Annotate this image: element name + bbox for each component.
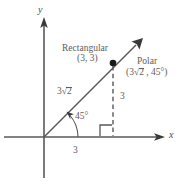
x-axis-label: x	[169, 130, 173, 141]
plotted-point	[110, 60, 117, 67]
polar-coordinates: (3√2 , 45°)	[126, 68, 167, 78]
polar-coords-open: (3	[126, 67, 134, 77]
hypotenuse-radical: √2	[62, 86, 72, 96]
polar-coords-close: , 45°)	[144, 67, 168, 77]
polar-radicand: 2	[139, 67, 144, 77]
hypotenuse-radicand: 2	[67, 86, 72, 96]
horizontal-leg-label: 3	[73, 146, 78, 156]
polar-label: Polar	[137, 57, 157, 67]
y-axis-label: y	[38, 5, 42, 16]
hypotenuse-label: 3√2	[57, 87, 72, 97]
diagram-graphics	[0, 0, 182, 184]
polar-radical-bar	[139, 68, 144, 69]
polar-radical: √2	[134, 67, 144, 77]
hypotenuse-radical-bar	[66, 87, 71, 88]
angle-label: 45°	[75, 112, 88, 122]
coordinate-diagram: y x Rectangular (3, 3) Polar (3√2 , 45°)…	[0, 0, 182, 184]
right-angle-marker	[100, 125, 112, 136]
rectangular-coordinates: (3, 3)	[77, 54, 98, 64]
vertical-leg-label: 3	[120, 92, 125, 102]
